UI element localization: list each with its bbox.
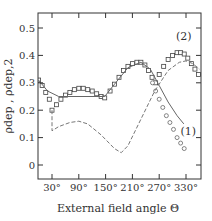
circle-marker <box>171 127 175 131</box>
square-marker <box>162 64 166 68</box>
y-tick-label: 0.4 <box>19 50 35 61</box>
y-tick-label: 0.2 <box>19 105 35 116</box>
circle-marker <box>179 141 183 145</box>
square-marker <box>186 56 190 60</box>
circle-marker <box>175 136 179 140</box>
y-tick-label: 0.3 <box>19 77 35 88</box>
square-marker <box>68 90 72 94</box>
square-marker <box>77 86 81 90</box>
circle-marker <box>161 105 165 109</box>
circle-marker <box>182 147 186 151</box>
square-marker <box>47 97 51 101</box>
y-tick-label: 0.1 <box>19 132 35 143</box>
x-tick-label: 150° <box>94 182 118 193</box>
square-marker <box>171 53 175 57</box>
square-marker <box>95 92 99 96</box>
square-marker <box>197 73 201 77</box>
square-marker <box>86 88 90 92</box>
y-tick-label: 0.5 <box>19 23 35 34</box>
square-marker <box>182 52 186 56</box>
circle-marker <box>164 114 168 118</box>
square-marker <box>90 89 94 93</box>
y-tick-label: 0 <box>29 160 35 171</box>
circle-marker <box>168 121 172 125</box>
axes: 30°90°150°210°270°330°00.10.20.30.40.5 <box>19 13 201 193</box>
square-marker <box>166 58 170 62</box>
annotation-label-1: (1) <box>180 125 196 138</box>
square-marker <box>72 88 76 92</box>
square-marker <box>157 73 161 77</box>
x-axis-title: External field angle Θ <box>57 202 179 215</box>
square-marker <box>59 97 63 101</box>
x-tick-label: 210° <box>120 182 144 193</box>
square-marker <box>193 67 197 71</box>
square-marker <box>81 86 85 90</box>
plot-area: (1)(2) <box>37 30 201 152</box>
x-tick-label: 90° <box>70 182 88 193</box>
x-tick-label: 270° <box>147 182 171 193</box>
annotation-label-2: (2) <box>176 30 192 43</box>
x-tick-label: 30° <box>43 182 61 193</box>
circle-marker <box>157 97 161 101</box>
x-tick-label: 330° <box>174 182 198 193</box>
y-axis-title: ρdep , ρdep,2 <box>2 58 15 133</box>
chart: (1)(2) 30°90°150°210°270°330°00.10.20.30… <box>0 0 212 221</box>
square-marker <box>54 103 58 107</box>
circle-marker <box>151 81 155 85</box>
